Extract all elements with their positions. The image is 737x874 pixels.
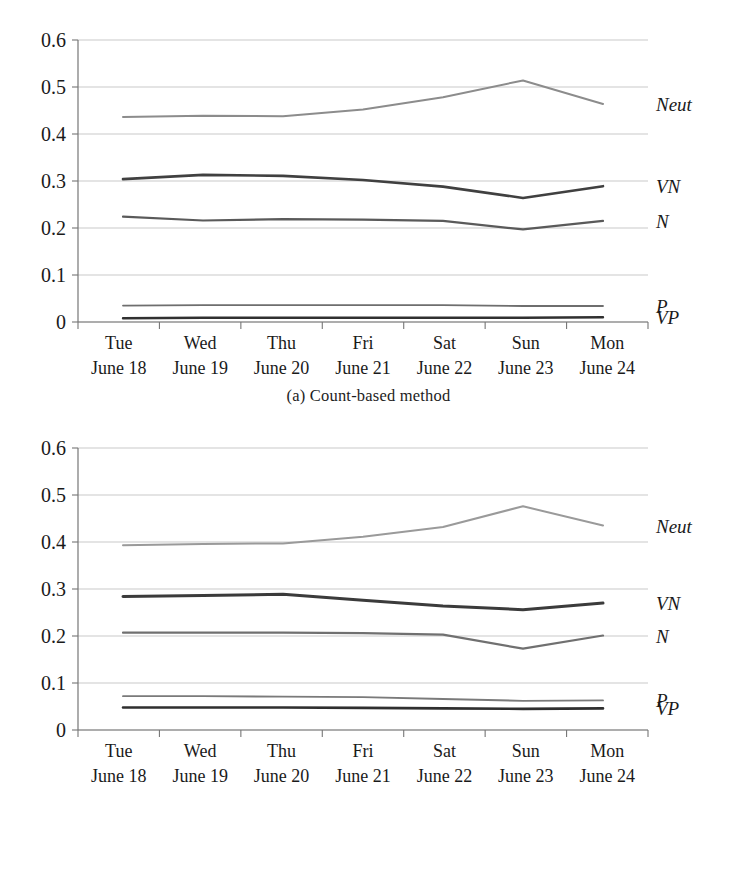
- series-label-neut: Neut: [655, 516, 693, 537]
- series-group: NeutVNNPVP: [123, 80, 693, 328]
- x-tick-label-day: Mon: [590, 333, 624, 353]
- x-tick-label-day: Thu: [267, 333, 296, 353]
- x-tick-label-day: Tue: [105, 741, 132, 761]
- x-tick-label-date: June 21: [335, 766, 391, 786]
- x-tick-label-date: June 18: [91, 358, 147, 378]
- x-tick-label-date: June 23: [498, 358, 554, 378]
- x-tick-label-day: Thu: [267, 741, 296, 761]
- series-label-n: N: [655, 626, 670, 647]
- y-tick-label: 0.5: [41, 484, 66, 506]
- series-label-vn: VN: [656, 593, 682, 614]
- chart-panel-b: 00.10.20.30.40.50.6TueJune 18WedJune 19T…: [0, 430, 737, 874]
- line-chart-a: 00.10.20.30.40.50.6TueJune 18WedJune 19T…: [0, 0, 737, 386]
- x-tick-label-day: Mon: [590, 741, 624, 761]
- line-chart-b: 00.10.20.30.40.50.6TueJune 18WedJune 19T…: [0, 430, 737, 797]
- x-tick-label-day: Tue: [105, 333, 132, 353]
- y-tick-label: 0: [56, 311, 66, 333]
- y-tick-label: 0.1: [41, 672, 66, 694]
- x-tick-label-date: June 21: [335, 358, 391, 378]
- series-line-n: [123, 633, 603, 649]
- x-tick-label-date: June 18: [91, 766, 147, 786]
- x-tick-label-day: Sat: [433, 741, 456, 761]
- series-line-p: [123, 305, 603, 306]
- y-tick-label: 0.3: [41, 578, 66, 600]
- x-ticks-group: TueJune 18WedJune 19ThuJune 20FriJune 21…: [78, 730, 648, 786]
- series-line-vn: [123, 594, 603, 610]
- figure-container: 00.10.20.30.40.50.6TueJune 18WedJune 19T…: [0, 0, 737, 874]
- series-line-vp: [123, 317, 603, 318]
- series-line-p: [123, 696, 603, 701]
- y-tick-label: 0.5: [41, 76, 66, 98]
- y-tick-label: 0.4: [41, 531, 66, 553]
- series-group: NeutVNNPVP: [123, 506, 693, 719]
- x-tick-label-date: June 19: [172, 358, 228, 378]
- y-tick-label: 0.3: [41, 170, 66, 192]
- x-tick-label-day: Wed: [184, 741, 217, 761]
- series-line-neut: [123, 80, 603, 117]
- x-tick-label-date: June 22: [417, 766, 473, 786]
- x-tick-label-date: June 24: [580, 766, 636, 786]
- y-tick-label: 0: [56, 719, 66, 741]
- y-tick-label: 0.4: [41, 123, 66, 145]
- series-line-vn: [123, 175, 603, 198]
- x-tick-label-day: Sat: [433, 333, 456, 353]
- series-line-neut: [123, 506, 603, 545]
- caption-a: (a) Count-based method: [0, 386, 737, 406]
- series-label-neut: Neut: [655, 94, 693, 115]
- x-tick-label-date: June 20: [254, 766, 310, 786]
- x-tick-label-date: June 23: [498, 766, 554, 786]
- series-label-vp: VP: [656, 307, 680, 328]
- series-label-n: N: [655, 211, 670, 232]
- y-tick-label: 0.6: [41, 437, 66, 459]
- x-tick-label-day: Sun: [512, 333, 540, 353]
- chart-panel-a: 00.10.20.30.40.50.6TueJune 18WedJune 19T…: [0, 0, 737, 430]
- y-tick-label: 0.6: [41, 29, 66, 51]
- y-tick-label: 0.1: [41, 264, 66, 286]
- x-ticks-group: TueJune 18WedJune 19ThuJune 20FriJune 21…: [78, 322, 648, 378]
- series-label-vn: VN: [656, 176, 682, 197]
- y-tick-label: 0.2: [41, 217, 66, 239]
- series-line-vp: [123, 707, 603, 708]
- series-label-vp: VP: [656, 698, 680, 719]
- x-tick-label-date: June 24: [580, 358, 636, 378]
- y-tick-label: 0.2: [41, 625, 66, 647]
- x-tick-label-date: June 22: [417, 358, 473, 378]
- x-tick-label-date: June 19: [172, 766, 228, 786]
- x-tick-label-date: June 20: [254, 358, 310, 378]
- x-tick-label-day: Fri: [352, 741, 373, 761]
- x-tick-label-day: Sun: [512, 741, 540, 761]
- x-tick-label-day: Wed: [184, 333, 217, 353]
- x-tick-label-day: Fri: [352, 333, 373, 353]
- gridlines-group: 00.10.20.30.40.50.6: [41, 29, 648, 333]
